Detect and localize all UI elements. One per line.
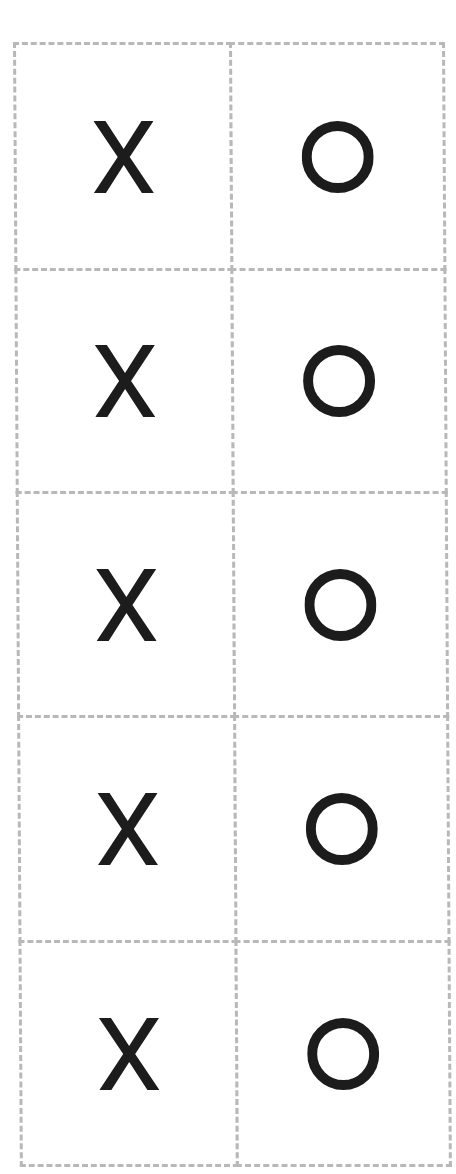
- board-row-5: [18, 940, 451, 1167]
- o-mark-icon: [303, 345, 375, 417]
- x-mark-icon: [93, 121, 153, 193]
- board-row-3: [16, 491, 449, 718]
- cell-r2-c1[interactable]: [14, 268, 234, 494]
- board-row-2: [14, 268, 447, 494]
- x-mark-icon: [96, 569, 156, 641]
- o-mark-icon: [306, 793, 378, 865]
- x-mark-icon: [98, 1018, 158, 1090]
- cell-r2-c2[interactable]: [230, 268, 447, 494]
- cell-r3-c2[interactable]: [232, 491, 449, 718]
- o-mark-icon: [304, 569, 376, 641]
- board-row-1: [13, 42, 446, 271]
- cell-r5-c1[interactable]: [18, 940, 238, 1167]
- x-mark-icon: [94, 345, 154, 417]
- cell-r4-c2[interactable]: [233, 715, 450, 943]
- cell-r1-c2[interactable]: [229, 42, 446, 271]
- game-board: [13, 42, 452, 1164]
- o-mark-icon: [301, 121, 373, 193]
- cell-r3-c1[interactable]: [16, 491, 236, 718]
- cell-r1-c1[interactable]: [13, 42, 233, 271]
- o-mark-icon: [307, 1018, 379, 1090]
- cell-r4-c1[interactable]: [17, 715, 237, 943]
- cell-r5-c2[interactable]: [234, 940, 451, 1167]
- x-mark-icon: [97, 793, 157, 865]
- board-row-4: [17, 715, 450, 943]
